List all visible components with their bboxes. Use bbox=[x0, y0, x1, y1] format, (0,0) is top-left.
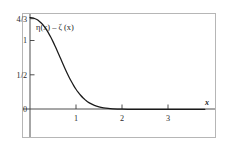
y-tick-label-0: 0 bbox=[23, 105, 27, 114]
x-axis-name-label: x bbox=[204, 98, 209, 107]
x-tick-label-2: 2 bbox=[120, 114, 124, 123]
y-tick-label-4over3: 4/3 bbox=[17, 15, 27, 24]
y-tick-label-1: 1 bbox=[23, 36, 27, 45]
x-tick-label-1: 1 bbox=[74, 114, 78, 123]
x-tick-label-3: 3 bbox=[166, 114, 170, 123]
plot-figure: 4/3 1 1/2 0 1 2 3 x η(x) – ζ (x) bbox=[0, 0, 228, 151]
figure-container: 4/3 1 1/2 0 1 2 3 x η(x) – ζ (x) bbox=[0, 0, 228, 151]
y-tick-label-1over2: 1/2 bbox=[17, 71, 27, 80]
